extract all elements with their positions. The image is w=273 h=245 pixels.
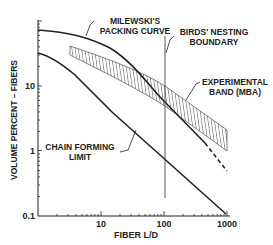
x-tick-10: 10 [96,219,106,229]
y-tick-0.1: 0.1 [22,211,35,221]
fiber-packing-chart: 0.1 1 10 10 100 1000 FIBER L/D VOLUME PE… [0,0,273,245]
x-tick-1000: 1000 [217,219,237,229]
band-label-line1: EXPERIMENTAL [202,77,268,87]
milewski-label-line1: MILEWSKI'S [110,16,161,26]
birds-leader [166,36,174,53]
y-ticks [38,21,42,196]
band-label-line2: BAND (MBA) [209,87,261,97]
chain-leader [120,130,136,152]
x-axis-title: FIBER L/D [114,230,158,240]
band-leader [186,82,200,100]
milewski-packing-curve [38,30,205,143]
y-tick-10: 10 [25,81,35,91]
y-tick-1: 1 [30,146,35,156]
milewski-leader [86,21,94,36]
birds-label-line1: BIRDS' NESTING [180,27,249,37]
x-ticks [57,211,227,216]
y-axis-title: VOLUME PERCENT – FIBERS [9,60,19,180]
chain-label-line2: LIMIT [69,152,92,162]
experimental-band [70,46,227,151]
milewski-label-line2: PACKING CURVE [100,26,171,36]
x-tick-100: 100 [156,219,171,229]
birds-label-line2: BOUNDARY [190,37,239,47]
chain-label-line1: CHAIN FORMING [45,142,115,152]
